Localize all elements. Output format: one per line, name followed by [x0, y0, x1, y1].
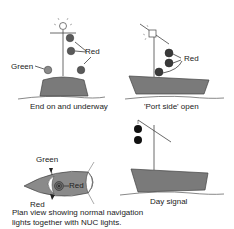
black-ball-upper-icon: [134, 125, 142, 133]
end-on-green-label: Green: [11, 63, 33, 71]
black-ball-lower-icon: [134, 136, 142, 144]
plan-view-caption-line1: Plan view showing normal navigation: [12, 208, 143, 217]
end-on-vessel: [18, 18, 105, 99]
red-sidelight-icon: [77, 66, 85, 74]
end-on-caption: End on and underway: [30, 102, 108, 111]
white-masthead-light-icon: [60, 23, 67, 30]
plan-view-red-center-label: Red: [69, 182, 84, 190]
plan-view-caption-line2: lights together with NUC lights.: [12, 218, 121, 227]
white-masthead-light-icon: [149, 30, 156, 37]
red-light-upper-icon: [66, 34, 74, 42]
port-side-red-label: Red: [184, 55, 199, 63]
red-light-lower-icon: [67, 47, 75, 55]
red-sidelight-icon: [155, 68, 163, 76]
port-side-vessel: [125, 24, 224, 99]
green-sidelight-icon: [44, 66, 52, 74]
port-side-caption: 'Port side' open: [144, 102, 199, 111]
end-on-red-label: Red: [85, 48, 100, 56]
red-light-lower-icon: [165, 59, 173, 67]
day-signal-caption: Day signal: [150, 197, 187, 206]
diagram-canvas: [0, 0, 234, 229]
red-light-upper-icon: [165, 49, 173, 57]
day-signal-vessel: [120, 120, 224, 195]
plan-view-green-label: Green: [36, 156, 58, 164]
